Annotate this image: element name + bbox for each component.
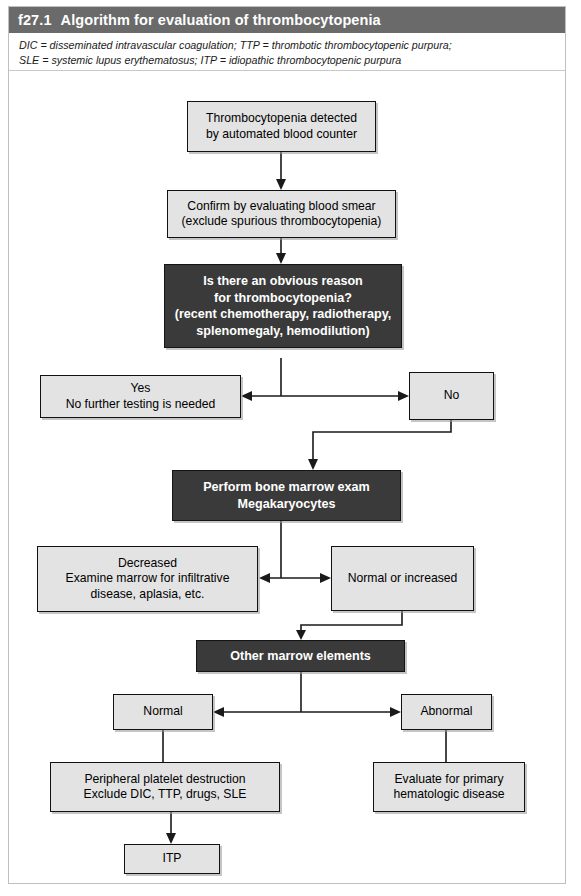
node-line: Examine marrow for infiltrative [66,571,230,585]
node-line: disease, aplasia, etc. [91,587,205,601]
node-perform-bone-marrow-exam: Perform bone marrow exam Megakaryocytes [172,470,401,521]
edge-no-marrow [313,420,451,459]
node-line: Is there an obvious reason [203,274,363,288]
node-line: Exclude DIC, TTP, drugs, SLE [84,787,247,801]
node-decreased: Decreased Examine marrow for infiltrativ… [37,546,258,612]
node-line: Other marrow elements [197,648,404,665]
node-line: (exclude spurious thrombocytopenia) [182,214,382,228]
edge-normalinc-other [301,611,402,630]
node-normal: Normal [113,694,213,730]
node-line: Peripheral platelet destruction [84,772,245,786]
node-line: Megakaryocytes [237,497,335,511]
node-no: No [409,372,494,420]
node-line: Confirm by evaluating blood smear [187,199,375,213]
node-evaluate-primary-hematologic: Evaluate for primary hematologic disease [373,762,525,812]
node-obvious-reason: Is there an obvious reason for thrombocy… [164,264,402,348]
node-line: ITP [125,851,219,867]
node-line: Normal [114,704,212,720]
node-peripheral-platelet-destruction: Peripheral platelet destruction Exclude … [50,762,280,812]
node-line: Normal or increased [332,571,473,587]
node-line: Abnormal [402,704,491,720]
node-line: Decreased [118,556,177,570]
node-line: hematologic disease [393,787,504,801]
node-yes-no-further-testing: Yes No further testing is needed [40,375,241,418]
node-line: No [410,388,493,404]
node-line: by automated blood counter [206,127,357,141]
node-line: Evaluate for primary [394,772,503,786]
node-itp: ITP [124,844,220,874]
node-line: No further testing is needed [66,397,216,411]
node-normal-or-increased: Normal or increased [331,546,474,611]
node-abnormal: Abnormal [401,694,492,730]
node-line: splenomegaly, hemodilution) [196,324,369,338]
node-confirm-blood-smear: Confirm by evaluating blood smear (exclu… [167,190,396,238]
node-line: for thrombocytopenia? [214,291,352,305]
node-line: Yes [131,381,151,395]
node-line: Perform bone marrow exam [203,480,370,494]
node-line: Thrombocytopenia detected [206,111,357,125]
node-other-marrow-elements: Other marrow elements [196,640,405,672]
node-line: (recent chemotherapy, radiotherapy, [175,307,392,321]
figure-page: f27.1 Algorithm for evaluation of thromb… [0,0,581,896]
node-thrombocytopenia-detected: Thrombocytopenia detected by automated b… [187,101,376,152]
